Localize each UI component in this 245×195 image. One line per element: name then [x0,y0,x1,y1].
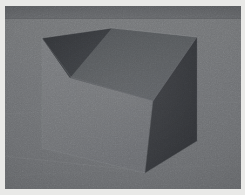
rendered-3d-scene [5,6,241,189]
image-viewport [0,0,245,195]
scene-svg [5,6,241,189]
sky-band [5,6,241,19]
